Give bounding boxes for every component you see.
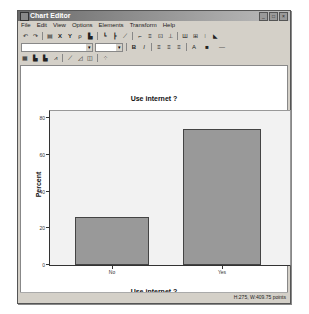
menu-bar: File Edit View Options Elements Transfor… (18, 21, 290, 30)
align-right-icon[interactable]: ≡ (175, 43, 183, 51)
toolbar-separator (151, 43, 152, 51)
bar-chart-2-icon[interactable]: ▙ (41, 54, 49, 62)
toolbar-separator (62, 54, 63, 62)
y-tick-label: 20 (29, 225, 45, 231)
annotation-icon[interactable]: ⌐ (136, 32, 144, 40)
undo-icon[interactable]: ↶ (21, 32, 29, 40)
toolbar-separator (126, 43, 127, 51)
x-tick-label-yes: Yes (212, 269, 232, 275)
bar-yes[interactable] (183, 129, 261, 265)
toolbar-separator (97, 54, 98, 62)
x-tick-label-no: No (102, 269, 122, 275)
y-tick-label: 60 (29, 152, 45, 158)
menu-transform[interactable]: Transform (130, 21, 157, 30)
fit-line-icon[interactable]: ⟋ (121, 32, 129, 40)
y-tick (46, 264, 50, 265)
close-button[interactable]: × (279, 12, 288, 21)
text-box-icon[interactable]: ≡ (146, 32, 154, 40)
legend-icon[interactable]: ⊞ (191, 32, 199, 40)
reference-line-y-icon[interactable]: ┗ (101, 32, 109, 40)
interpolation-icon[interactable]: ⁞ (201, 32, 209, 40)
maximize-button[interactable]: □ (269, 12, 278, 21)
y-tick (46, 191, 50, 192)
fill-color-button[interactable]: ■ (200, 43, 214, 51)
toolbar-separator (186, 43, 187, 51)
y-tick-label: 80 (29, 115, 45, 121)
chevron-down-icon: ▾ (116, 44, 122, 51)
footnote-icon[interactable]: ⊡ (156, 32, 164, 40)
properties-icon[interactable]: ▤ (46, 32, 54, 40)
plot-area[interactable]: Percent No Yes 0 20 40 60 80 (49, 110, 291, 266)
chart-canvas[interactable]: Use internet ? Percent No Yes 0 20 40 60… (20, 65, 288, 293)
toolbar-separator (42, 32, 43, 40)
italic-button[interactable]: I (140, 43, 148, 51)
menu-help[interactable]: Help (163, 21, 175, 30)
align-left-icon[interactable]: ≡ (155, 43, 163, 51)
redo-icon[interactable]: ↷ (31, 32, 39, 40)
y-tick-label: 0 (29, 262, 45, 268)
text-color-button[interactable]: A (190, 43, 198, 51)
toolbar-chart-type: ▦ ▙ ▙ ⩘ ⟋ ◿ ◫ ⁘ (19, 53, 289, 63)
line-chart-icon[interactable]: ⩘ (51, 54, 59, 62)
lasso-icon[interactable]: ρ (76, 32, 84, 40)
align-center-icon[interactable]: ≡ (165, 43, 173, 51)
font-size-select[interactable]: ▾ (95, 43, 123, 52)
toolbar-separator (132, 32, 133, 40)
area-chart-icon[interactable]: ◿ (76, 54, 84, 62)
y-axis-icon[interactable]: Y (66, 32, 74, 40)
chart-editor-window: Chart Editor _ □ × File Edit View Option… (17, 10, 291, 304)
bar-chart-icon[interactable]: ▙ (31, 54, 39, 62)
bar-no[interactable] (75, 217, 149, 265)
scatter-icon[interactable]: ⁘ (101, 54, 109, 62)
toolbar-format: ▾ ▾ B I ≡ ≡ ≡ A ■ — (19, 42, 289, 52)
window-title: Chart Editor (30, 11, 70, 21)
status-dimensions: H:275, W:409.75 points (234, 293, 286, 301)
bar-icon[interactable]: ▙ (86, 32, 94, 40)
toolbar-separator (177, 32, 178, 40)
status-bar: H:275, W:409.75 points (20, 292, 288, 301)
data-labels-icon[interactable]: ⊥ (166, 32, 174, 40)
menu-elements[interactable]: Elements (99, 21, 124, 30)
reference-line-x-icon[interactable]: ┣ (111, 32, 119, 40)
select-icon[interactable]: ◣ (211, 32, 219, 40)
bold-button[interactable]: B (130, 43, 138, 51)
error-bars-icon[interactable]: Ш (181, 32, 189, 40)
pie-chart-icon[interactable]: ◫ (86, 54, 94, 62)
menu-view[interactable]: View (53, 21, 66, 30)
toolbar-main: ↶ ↷ ▤ X Y ρ ▙ ┗ ┣ ⟋ ⌐ ≡ ⊡ ⊥ Ш ⊞ ⁞ ◣ (19, 31, 289, 41)
menu-file[interactable]: File (21, 21, 31, 30)
line-style-button[interactable]: — (216, 43, 228, 51)
title-bar[interactable]: Chart Editor _ □ × (18, 11, 290, 21)
chart-title[interactable]: Use internet ? (21, 95, 287, 102)
toolbar-separator (97, 32, 98, 40)
menu-options[interactable]: Options (72, 21, 93, 30)
menu-edit[interactable]: Edit (37, 21, 47, 30)
font-family-select[interactable]: ▾ (21, 43, 93, 52)
minimize-button[interactable]: _ (259, 12, 268, 21)
y-tick-label: 40 (29, 189, 45, 195)
chevron-down-icon: ▾ (86, 44, 92, 51)
x-axis-icon[interactable]: X (56, 32, 64, 40)
line-chart-2-icon[interactable]: ⟋ (66, 54, 74, 62)
chart-editor-app-icon (20, 12, 29, 21)
grid-icon[interactable]: ▦ (21, 54, 29, 62)
y-tick (46, 154, 50, 155)
y-tick (46, 117, 50, 118)
y-tick (46, 227, 50, 228)
